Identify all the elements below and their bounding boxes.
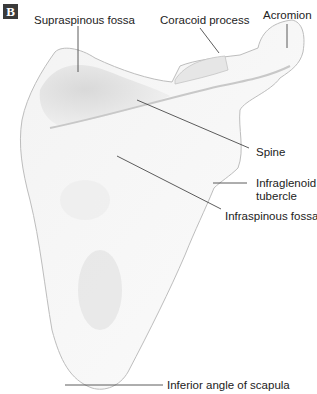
panel-letter-badge: B xyxy=(3,4,18,19)
label-spine: Spine xyxy=(256,146,285,159)
label-infraglenoid-tubercle-line2: tubercle xyxy=(256,190,297,203)
label-acromion: Acromion xyxy=(263,9,312,22)
label-coracoid-process: Coracoid process xyxy=(160,14,249,27)
label-supraspinous-fossa: Supraspinous fossa xyxy=(34,14,135,27)
label-infraglenoid-tubercle-line1: Infraglenoid xyxy=(256,177,316,190)
label-infraspinous-fossa: Infraspinous fossa xyxy=(225,210,317,223)
label-inferior-angle: Inferior angle of scapula xyxy=(167,379,290,392)
